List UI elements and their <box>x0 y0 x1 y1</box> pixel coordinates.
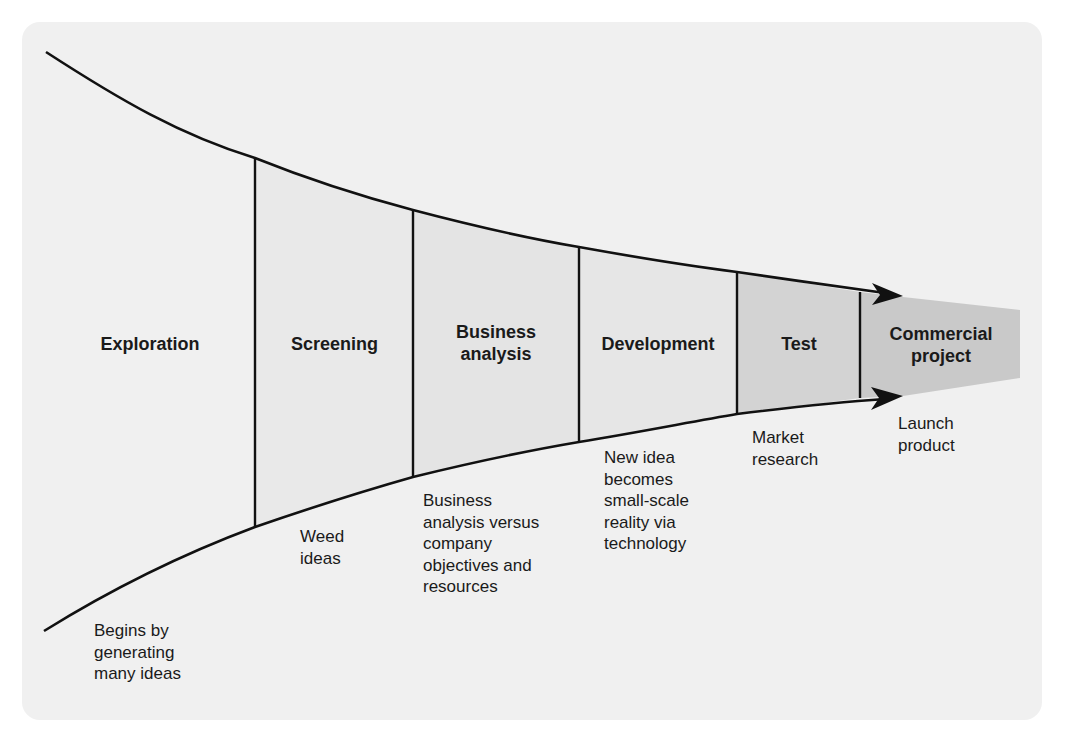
stage-title-commercial-project: Commercial project <box>868 323 1014 367</box>
stage-desc-screening: Weed ideas <box>300 526 344 569</box>
stage-title-exploration: Exploration <box>80 333 220 355</box>
stage-title-development: Development <box>582 333 734 355</box>
stage-desc-commercial-project: Launch product <box>898 413 955 456</box>
stage-desc-business-analysis: Business analysis versus company objecti… <box>423 490 539 598</box>
stage-title-business-analysis: Business analysis <box>420 321 572 365</box>
stage-title-test: Test <box>740 333 858 355</box>
stage-title-screening: Screening <box>262 333 407 355</box>
stage-desc-test: Market research <box>752 427 818 470</box>
stage-desc-development: New idea becomes small-scale reality via… <box>604 447 689 555</box>
stage-desc-exploration: Begins by generating many ideas <box>94 620 181 685</box>
